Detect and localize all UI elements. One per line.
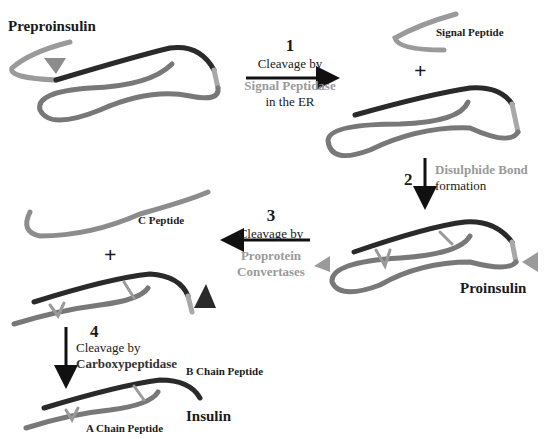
proinsulin-label: Proinsulin bbox=[460, 280, 526, 297]
step-1-location: in the ER bbox=[244, 94, 336, 110]
step-3-number: 3 bbox=[226, 206, 316, 226]
step-3-annotation: 3 Cleavage by Proprotein Convertases bbox=[226, 206, 316, 280]
step-4-enzyme: Carboxypeptidase bbox=[76, 356, 177, 372]
step-4-text: Cleavage by bbox=[76, 340, 177, 356]
a-chain-label: A Chain Peptide bbox=[86, 422, 163, 434]
signal-peptide-label: Signal Peptide bbox=[436, 26, 504, 38]
step-4-annotation: Cleavage by Carboxypeptidase bbox=[76, 340, 177, 372]
plus-sign-2: + bbox=[104, 242, 117, 268]
insulin-label: Insulin bbox=[186, 408, 231, 425]
step-4-number: 4 bbox=[90, 322, 99, 342]
step-3-enzyme-2: Convertases bbox=[226, 264, 316, 280]
cleaved-proinsulin-molecule bbox=[14, 274, 216, 324]
plus-sign-1: + bbox=[414, 58, 427, 84]
c-peptide-label: C Peptide bbox=[138, 214, 184, 226]
step-2-number: 2 bbox=[404, 170, 413, 190]
step-1-annotation: 1 Cleavage by Signal Peptidase in the ER bbox=[244, 36, 336, 110]
step-2-text: formation bbox=[435, 178, 528, 194]
step-1-text: Cleavage by bbox=[244, 56, 336, 72]
preproinsulin-label: Preproinsulin bbox=[8, 18, 96, 35]
step-1-number: 1 bbox=[244, 36, 336, 56]
step-3-enzyme-1: Proprotein bbox=[226, 248, 316, 264]
step-2-annotation: Disulphide Bond formation bbox=[435, 162, 528, 194]
step-2-enzyme: Disulphide Bond bbox=[435, 162, 528, 178]
intermediate-molecule bbox=[328, 88, 518, 156]
step-3-text: Cleavage by bbox=[226, 226, 316, 242]
step-1-enzyme: Signal Peptidase bbox=[244, 78, 336, 94]
preproinsulin-molecule bbox=[12, 42, 218, 120]
insulin-molecule bbox=[26, 380, 200, 428]
b-chain-label: B Chain Peptide bbox=[186, 365, 263, 377]
